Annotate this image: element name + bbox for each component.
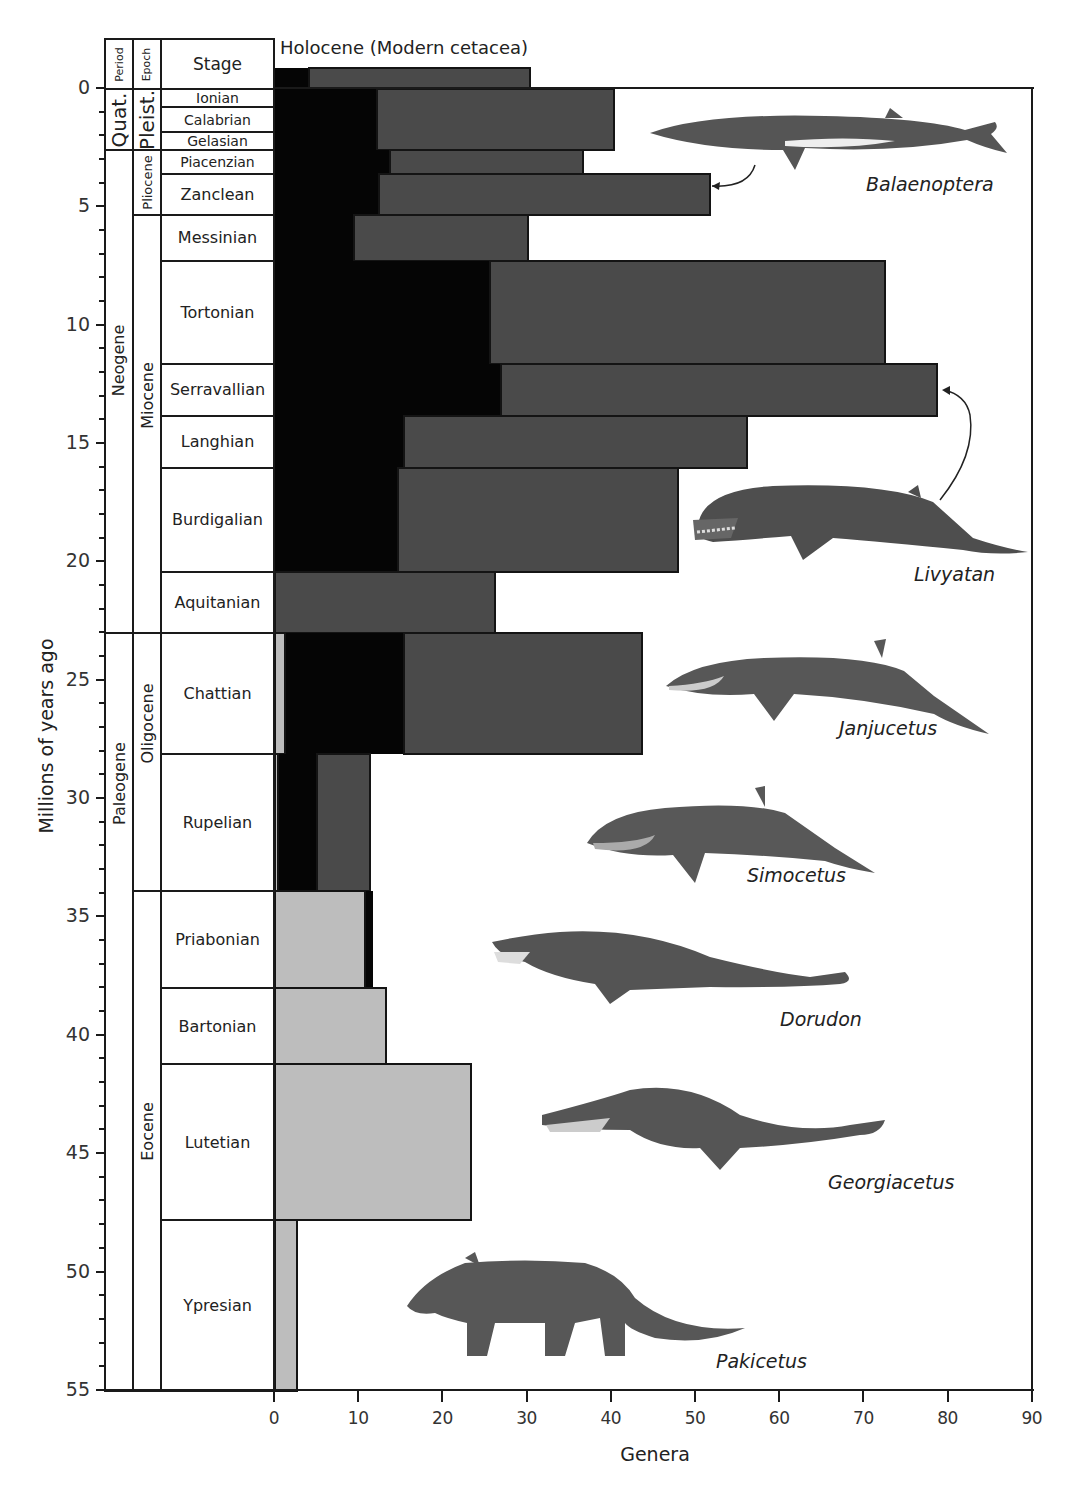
stage-cell-label: Ionian <box>196 90 239 106</box>
bar-archaeoceti <box>274 1219 298 1391</box>
x-axis-title: Genera <box>600 1443 710 1465</box>
x-tick-label: 50 <box>675 1408 715 1428</box>
holocene-label: Holocene (Modern cetacea) <box>280 37 528 58</box>
bar-odontoceti <box>489 260 886 365</box>
pakicetus-label: Pakicetus <box>716 1350 807 1372</box>
stage-cell: Calabrian <box>160 106 275 132</box>
epoch-cell: Miocene <box>132 214 162 634</box>
dorudon-label: Dorudon <box>780 1008 862 1030</box>
balaenoptera-arrow <box>700 160 770 200</box>
stage-cell-label: Ypresian <box>183 1296 252 1315</box>
x-tick-label: 30 <box>507 1408 547 1428</box>
stage-cell: Serravallian <box>160 363 275 417</box>
x-tick <box>526 1390 528 1402</box>
bar-mysticeti <box>284 633 403 754</box>
bar-odontoceti <box>316 753 371 892</box>
stage-cell: Priabonian <box>160 890 275 989</box>
bar-archaeoceti <box>274 632 286 755</box>
stage-cell-label: Gelasian <box>187 133 248 149</box>
y-tick-label: 50 <box>30 1260 90 1282</box>
x-tick-label: 90 <box>1012 1408 1052 1428</box>
period-header-label: Period <box>113 47 126 81</box>
stage-cell: Gelasian <box>160 131 275 151</box>
stage-cell: Rupelian <box>160 753 275 892</box>
bar-mysticeti <box>274 261 489 364</box>
x-tick <box>1031 1390 1033 1402</box>
stage-cell-label: Burdigalian <box>172 510 263 529</box>
y-tick-label: 15 <box>30 431 90 453</box>
epoch-cell: Pliocene <box>132 149 162 216</box>
y-tick-label: 40 <box>30 1023 90 1045</box>
bar-mysticeti <box>274 174 378 215</box>
epoch-cell: Eocene <box>132 890 162 1391</box>
y-axis-line <box>104 87 106 1391</box>
bar-archaeoceti <box>274 987 387 1065</box>
stage-cell-label: Piacenzian <box>180 154 254 170</box>
x-tick-label: 40 <box>591 1408 631 1428</box>
period-cell: Quat. <box>104 88 134 151</box>
bar-mysticeti <box>274 416 403 468</box>
janjucetus-illustration <box>664 636 994 736</box>
stage-cell: Messinian <box>160 214 275 261</box>
bar-mysticeti <box>274 364 500 416</box>
period-cell: Paleogene <box>104 632 134 1391</box>
bar-odontoceti <box>500 363 939 417</box>
stage-header: Stage <box>160 38 275 88</box>
bar-odontoceti <box>376 88 615 151</box>
stage-cell-label: Bartonian <box>179 1017 257 1036</box>
bar-mysticeti <box>277 754 316 891</box>
zero-line <box>273 62 275 1390</box>
y-tick-label: 25 <box>30 668 90 690</box>
bar-mysticeti <box>274 215 353 260</box>
period-cell-label: Neogene <box>110 325 129 397</box>
period-cell: Neogene <box>104 149 134 634</box>
x-tick-label: 70 <box>843 1408 883 1428</box>
dorudon-illustration <box>490 922 855 1007</box>
period-cell-label: Paleogene <box>110 743 129 826</box>
x-tick <box>862 1390 864 1402</box>
stage-cell-label: Rupelian <box>183 813 252 832</box>
bar-mysticeti <box>274 150 389 174</box>
epoch-header: Epoch <box>132 38 162 88</box>
stage-cell: Aquitanian <box>160 571 275 635</box>
livyatan-arrow <box>936 385 986 505</box>
bar-odontoceti <box>397 467 679 573</box>
stage-cell-label: Priabonian <box>175 930 260 949</box>
stage-cell: Bartonian <box>160 987 275 1065</box>
right-frame-line <box>1031 87 1033 1391</box>
x-tick-label: 80 <box>928 1408 968 1428</box>
epoch-cell: Oligocene <box>132 632 162 892</box>
period-cell-label: Quat. <box>107 92 131 147</box>
balaenoptera-label: Balaenoptera <box>866 173 994 195</box>
top-frame-line <box>274 87 1034 89</box>
x-tick <box>778 1390 780 1402</box>
y-tick-label: 10 <box>30 313 90 335</box>
stage-cell: Burdigalian <box>160 467 275 573</box>
stage-cell-label: Calabrian <box>184 112 251 128</box>
x-tick-label: 10 <box>338 1408 378 1428</box>
y-tick-label: 30 <box>30 786 90 808</box>
x-tick <box>610 1390 612 1402</box>
stage-cell-label: Aquitanian <box>174 593 260 612</box>
stage-cell-label: Langhian <box>181 432 255 451</box>
bar-mysticeti <box>274 89 376 150</box>
epoch-cell-label: Pleist. <box>135 89 159 149</box>
y-tick-label: 35 <box>30 904 90 926</box>
bar-mysticeti <box>274 468 397 572</box>
stage-header-label: Stage <box>193 54 242 74</box>
stage-cell-label: Zanclean <box>181 185 255 204</box>
x-tick <box>357 1390 359 1402</box>
epoch-cell-label: Oligocene <box>138 684 157 764</box>
simocetus-label: Simocetus <box>747 864 846 886</box>
epoch-cell-label: Pliocene <box>140 155 155 209</box>
stage-cell: Lutetian <box>160 1063 275 1221</box>
stage-cell-label: Serravallian <box>170 380 265 399</box>
period-header: Period <box>104 38 134 88</box>
georgiacetus-illustration <box>540 1080 890 1180</box>
stage-cell-label: Messinian <box>178 228 257 247</box>
bar-odontoceti <box>274 571 496 635</box>
x-tick <box>694 1390 696 1402</box>
x-tick-label: 60 <box>759 1408 799 1428</box>
bar-archaeoceti <box>274 1063 472 1221</box>
bar-odontoceti <box>389 149 584 175</box>
